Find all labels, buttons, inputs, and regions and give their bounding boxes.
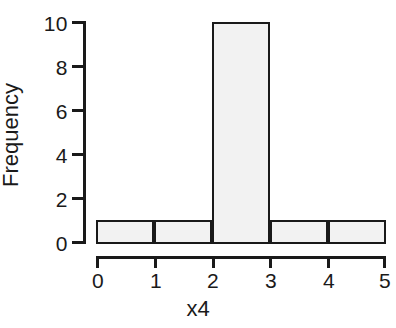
histogram-bar (328, 220, 386, 244)
y-tick-label: 8 (18, 57, 68, 78)
x-axis-line (96, 256, 386, 259)
y-axis-tick (72, 153, 84, 156)
y-tick-label: 6 (18, 101, 68, 122)
histogram-figure: 10 8 6 4 2 0 0 1 2 3 4 5 Frequency x4 (0, 0, 396, 328)
x-axis-tick (212, 256, 215, 268)
plot-area: 10 8 6 4 2 0 0 1 2 3 4 5 (0, 0, 396, 328)
x-axis-tick (269, 256, 272, 268)
y-axis-label: Frequency (0, 35, 22, 235)
x-tick-label: 1 (136, 270, 176, 291)
x-tick-label: 3 (251, 270, 291, 291)
y-tick-label: 2 (18, 189, 68, 210)
x-axis-tick (154, 256, 157, 268)
y-axis-tick (72, 197, 84, 200)
y-axis-tick (72, 21, 84, 24)
histogram-bar (212, 22, 270, 244)
histogram-bar (154, 220, 212, 244)
y-axis-tick (72, 241, 84, 244)
histogram-bar (270, 220, 328, 244)
y-tick-label: 0 (18, 233, 68, 254)
y-axis-tick (72, 65, 84, 68)
x-tick-label: 5 (365, 270, 396, 291)
histogram-bar (96, 220, 154, 244)
x-axis-tick (383, 256, 386, 268)
x-tick-label: 4 (309, 270, 349, 291)
y-tick-label: 4 (18, 145, 68, 166)
y-axis-tick (72, 109, 84, 112)
x-axis-tick (327, 256, 330, 268)
x-axis-label: x4 (0, 298, 396, 320)
x-tick-label: 0 (78, 270, 118, 291)
x-tick-label: 2 (193, 270, 233, 291)
x-axis-tick (96, 256, 99, 268)
y-tick-label: 10 (18, 13, 68, 34)
y-axis-line (83, 21, 86, 244)
